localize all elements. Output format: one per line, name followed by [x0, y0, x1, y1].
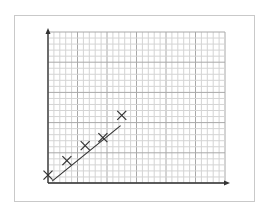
scatter-chart [0, 0, 269, 218]
x-axis-arrow-icon [224, 181, 230, 186]
grid [48, 32, 225, 183]
x-marker-icon [62, 156, 71, 165]
data-markers [44, 111, 127, 180]
axes [46, 28, 231, 186]
x-marker-icon [81, 141, 90, 150]
y-axis-arrow-icon [46, 28, 51, 34]
fit-line [52, 126, 120, 182]
